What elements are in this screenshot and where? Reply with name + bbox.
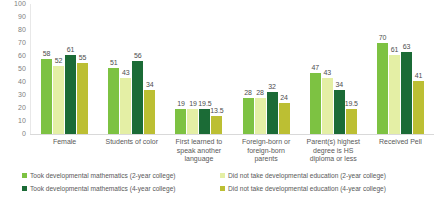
bar-value-label: 41 — [415, 72, 423, 80]
bar-value-label: 55 — [79, 54, 87, 62]
bar[interactable]: 34 — [334, 90, 345, 134]
bar-group: 28283224 — [233, 4, 300, 134]
bar-value-label: 28 — [244, 89, 252, 97]
y-axis-tick-100: 100 — [14, 0, 26, 8]
bar-fill — [175, 109, 186, 134]
bar-value-label: 58 — [43, 50, 51, 58]
bar-fill — [334, 90, 345, 134]
category-label: Students of color — [98, 138, 165, 168]
legend-swatch-icon — [220, 173, 225, 178]
bar-cluster: 58526155 — [41, 4, 88, 134]
bar-cluster: 70616341 — [377, 4, 424, 134]
bar-value-label: 34 — [335, 81, 343, 89]
bar-fill — [211, 116, 222, 134]
y-axis-tick-30: 30 — [18, 91, 26, 99]
bar[interactable]: 63 — [401, 52, 412, 134]
bar[interactable]: 51 — [108, 68, 119, 134]
bar[interactable]: 24 — [279, 103, 290, 134]
bar[interactable]: 28 — [243, 98, 254, 134]
bar-value-label: 19 — [177, 100, 185, 108]
legend-item[interactable]: Did not take developmental education (4-… — [220, 183, 436, 194]
bar-fill — [199, 109, 210, 134]
legend-item[interactable]: Took developmental mathematics (2-year c… — [22, 170, 220, 181]
y-axis-tick-20: 20 — [18, 104, 26, 112]
bar-fill — [377, 43, 388, 134]
bar-fill — [187, 109, 198, 134]
bar-group: 58526155 — [31, 4, 98, 134]
bar-value-label: 43 — [122, 69, 130, 77]
bar-value-label: 63 — [403, 43, 411, 51]
bar[interactable]: 34 — [144, 90, 155, 134]
legend-swatch-icon — [220, 186, 225, 191]
bar[interactable]: 58 — [41, 59, 52, 134]
bar-groups: 5852615551435634191919.513.5282832244743… — [31, 4, 434, 134]
chart-legend: Took developmental mathematics (2-year c… — [22, 170, 436, 194]
bar[interactable]: 13.5 — [211, 116, 222, 134]
bar-fill — [65, 55, 76, 134]
bar-value-label: 28 — [256, 89, 264, 97]
bar-group: 70616341 — [367, 4, 434, 134]
bar-fill — [132, 61, 143, 134]
bar-value-label: 56 — [134, 52, 142, 60]
bar-fill — [108, 68, 119, 134]
bar-value-label: 19.5 — [198, 100, 211, 108]
legend-label: Did not take developmental education (2-… — [228, 171, 386, 180]
y-axis: 1009080706050403020100 — [0, 4, 30, 134]
bar-value-label: 61 — [67, 46, 75, 54]
bar-fill — [279, 103, 290, 134]
category-label: First learned tospeak anotherlanguage — [165, 138, 232, 168]
legend-item[interactable]: Did not take developmental education (2-… — [220, 170, 436, 181]
bar-cluster: 51435634 — [108, 4, 155, 134]
bar[interactable]: 47 — [310, 73, 321, 134]
legend-item[interactable]: Took developmental mathematics (4-year c… — [22, 183, 220, 194]
bar[interactable]: 19.5 — [199, 109, 210, 134]
bar-fill — [255, 98, 266, 134]
bar-cluster: 47433419.5 — [310, 4, 357, 134]
bar[interactable]: 43 — [322, 78, 333, 134]
bar[interactable]: 56 — [132, 61, 143, 134]
bar-value-label: 61 — [391, 46, 399, 54]
y-axis-tick-40: 40 — [18, 78, 26, 86]
bar[interactable]: 43 — [120, 78, 131, 134]
bar-group: 51435634 — [98, 4, 165, 134]
bar-fill — [346, 109, 357, 134]
y-axis-tick-60: 60 — [18, 52, 26, 60]
bar-fill — [243, 98, 254, 134]
bar-value-label: 70 — [379, 34, 387, 42]
bar-fill — [120, 78, 131, 134]
bar[interactable]: 19 — [187, 109, 198, 134]
bar-fill — [77, 63, 88, 135]
bar-value-label: 43 — [323, 69, 331, 77]
category-label: Foreign-born orforeign-bornparents — [233, 138, 300, 168]
bar[interactable]: 52 — [53, 66, 64, 134]
bar-value-label: 32 — [268, 83, 276, 91]
bar-cluster: 191919.513.5 — [175, 4, 222, 134]
y-axis-tick-70: 70 — [18, 39, 26, 47]
bar-group: 47433419.5 — [300, 4, 367, 134]
bar[interactable]: 19.5 — [346, 109, 357, 134]
bar[interactable]: 70 — [377, 43, 388, 134]
category-label: Female — [31, 138, 98, 168]
category-axis-labels: FemaleStudents of colorFirst learned tos… — [31, 138, 434, 168]
legend-swatch-icon — [22, 173, 27, 178]
y-axis-tick-80: 80 — [18, 26, 26, 34]
plot-area: 1009080706050403020100 58526155514356341… — [0, 4, 438, 136]
bar[interactable]: 61 — [389, 55, 400, 134]
category-label: Received Pell — [367, 138, 434, 168]
bar-fill — [413, 81, 424, 134]
bar[interactable]: 41 — [413, 81, 424, 134]
bar-value-label: 47 — [311, 64, 319, 72]
category-label: Parent(s) highestdegree is HSdiploma or … — [300, 138, 367, 168]
y-axis-tick-0: 0 — [22, 130, 26, 138]
y-axis-tick-10: 10 — [18, 117, 26, 125]
bar-value-label: 19.5 — [345, 100, 358, 108]
y-axis-tick-90: 90 — [18, 13, 26, 21]
bar[interactable]: 32 — [267, 92, 278, 134]
bar[interactable]: 19 — [175, 109, 186, 134]
legend-label: Took developmental mathematics (2-year c… — [30, 171, 176, 180]
bar[interactable]: 28 — [255, 98, 266, 134]
bar[interactable]: 61 — [65, 55, 76, 134]
bar-fill — [401, 52, 412, 134]
bar-value-label: 24 — [280, 94, 288, 102]
bar[interactable]: 55 — [77, 63, 88, 135]
